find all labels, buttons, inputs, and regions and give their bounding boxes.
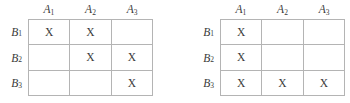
column-header-a1-subscript: 1 — [50, 8, 54, 17]
column-header-a3: A3 — [303, 0, 345, 19]
row-header-b3-subscript: 3 — [18, 81, 22, 90]
cell-b2-a1: X — [221, 45, 262, 69]
row-header-b1: B1 — [192, 19, 216, 45]
row-header-b3: B3 — [192, 70, 216, 96]
row-header-b1-base: B — [11, 26, 18, 38]
row-header-b3: B3 — [0, 70, 24, 96]
cell-b3-a1: X — [221, 71, 262, 95]
column-header-row: A1 A2 A3 — [28, 0, 153, 19]
column-header-a3-base: A — [319, 3, 326, 15]
row-header-b1: B1 — [0, 19, 24, 45]
cell-b1-a2 — [262, 20, 303, 44]
cell-b2-a1 — [29, 45, 70, 69]
row-header-column: B1 B2 B3 — [0, 19, 24, 96]
cell-b3-a3: X — [304, 71, 344, 95]
table-row: X — [221, 20, 344, 45]
column-header-a2: A2 — [70, 0, 112, 19]
row-header-b2-subscript: 2 — [18, 55, 22, 64]
column-header-a3: A3 — [111, 0, 153, 19]
cell-b2-a2: X — [70, 45, 111, 69]
matrix-grid: X X X X X — [28, 19, 153, 96]
row-header-b3-base: B — [203, 77, 210, 89]
column-header-a1-subscript: 1 — [242, 8, 246, 17]
table-row: X — [221, 45, 344, 70]
cell-b3-a2: X — [262, 71, 303, 95]
row-header-b2-subscript: 2 — [210, 55, 214, 64]
column-header-row: A1 A2 A3 — [220, 0, 345, 19]
column-header-a2-subscript: 2 — [92, 8, 96, 17]
row-header-column: B1 B2 B3 — [192, 19, 216, 96]
row-header-b1-base: B — [203, 26, 210, 38]
column-header-a1: A1 — [220, 0, 262, 19]
column-header-a3-subscript: 3 — [326, 8, 330, 17]
row-header-b2: B2 — [0, 45, 24, 71]
incidence-matrix-figure: A1 A2 A3 B1 B2 B3 X X — [0, 0, 350, 103]
row-header-b3-subscript: 3 — [210, 81, 214, 90]
table-row: X X — [29, 20, 152, 45]
cell-b1-a1: X — [29, 20, 70, 44]
incidence-matrix-right: A1 A2 A3 B1 B2 B3 X — [192, 0, 348, 103]
row-header-b2-base: B — [11, 52, 18, 64]
cell-b1-a3 — [304, 20, 344, 44]
cell-b2-a3 — [304, 45, 344, 69]
cell-b1-a3 — [112, 20, 152, 44]
table-row: X X X — [221, 71, 344, 95]
matrix-grid: X X X X X — [220, 19, 345, 96]
table-row: X — [29, 71, 152, 95]
row-header-b1-subscript: 1 — [210, 29, 214, 38]
row-header-b1-subscript: 1 — [18, 29, 22, 38]
column-header-a2: A2 — [262, 0, 304, 19]
incidence-matrix-left: A1 A2 A3 B1 B2 B3 X X — [0, 0, 156, 103]
cell-b2-a2 — [262, 45, 303, 69]
cell-b2-a3: X — [112, 45, 152, 69]
column-header-a1: A1 — [28, 0, 70, 19]
column-header-a3-subscript: 3 — [134, 8, 138, 17]
cell-b1-a1: X — [221, 20, 262, 44]
column-header-a3-base: A — [127, 3, 134, 15]
cell-b1-a2: X — [70, 20, 111, 44]
table-row: X X — [29, 45, 152, 70]
row-header-b2: B2 — [192, 45, 216, 71]
row-header-b3-base: B — [11, 77, 18, 89]
cell-b3-a1 — [29, 71, 70, 95]
cell-b3-a2 — [70, 71, 111, 95]
cell-b3-a3: X — [112, 71, 152, 95]
column-header-a2-subscript: 2 — [284, 8, 288, 17]
row-header-b2-base: B — [203, 52, 210, 64]
